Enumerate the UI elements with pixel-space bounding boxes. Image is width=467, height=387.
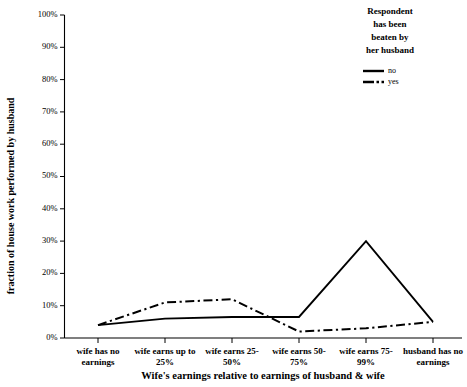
y-tick-label: 20% [42,267,58,277]
chart-background [0,0,467,387]
x-tick-label-line: 50% [223,357,241,367]
y-tick-label: 60% [42,138,58,148]
legend-title-line: has been [373,19,406,29]
y-tick-label: 50% [42,170,58,180]
y-tick-label: 40% [42,203,58,213]
x-tick-label-line: husband has no [403,346,464,356]
legend-label-no: no [388,66,396,75]
x-tick-label-line: earnings [416,357,450,367]
legend-title-line: Respondent [367,6,413,16]
y-tick-label: 0% [46,332,57,342]
y-tick-label: 70% [42,106,58,116]
y-axis-title: fraction of house work performed by husb… [5,97,16,294]
x-tick-label-line: wife earns 25- [205,346,259,356]
chart-container: 0%10%20%30%40%50%60%70%80%90%100% wife h… [0,0,467,387]
x-tick-label-line: earnings [81,357,115,367]
y-tick-label: 90% [42,41,58,51]
x-tick-label-line: wife earns up to [134,346,196,356]
y-tick-label: 100% [38,9,58,19]
y-tick-label: 80% [42,74,58,84]
y-tick-label: 10% [42,300,58,310]
legend-title-line: beaten by [371,32,409,42]
legend-label-yes: yes [388,77,399,86]
x-tick-label: wife has noearnings [76,346,120,367]
x-tick-label-line: wife earns 50- [272,346,326,356]
x-tick-label-line: wife has no [76,346,120,356]
x-axis-title: Wife's earnings relative to earnings of … [141,370,385,381]
x-tick-label-line: 25% [156,357,174,367]
x-tick-label-line: 99% [357,357,375,367]
x-tick-label-line: wife earns 75- [339,346,393,356]
line-chart: 0%10%20%30%40%50%60%70%80%90%100% wife h… [0,0,467,387]
y-tick-label: 30% [42,235,58,245]
x-tick-label-line: 75% [290,357,308,367]
legend-title-line: her husband [366,45,414,55]
